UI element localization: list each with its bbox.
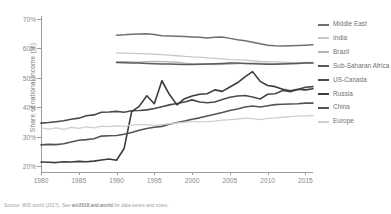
x-tick-mark [192, 172, 193, 175]
x-tick-label: 1990 [109, 177, 124, 184]
legend-item-middle-east[interactable]: Middle East [318, 20, 391, 27]
x-tick-label: 2010 [260, 177, 275, 184]
x-tick-label: 2015 [298, 177, 313, 184]
legend-item-europe[interactable]: Europe [318, 117, 391, 124]
x-tick-mark [230, 172, 231, 175]
x-tick-mark [41, 172, 42, 175]
legend-swatch-icon [318, 65, 329, 67]
legend-swatch-icon [318, 93, 329, 95]
x-tick-mark [268, 172, 269, 175]
x-tick-mark [117, 172, 118, 175]
x-tick-mark [79, 172, 80, 175]
source-suffix: for data series and notes. [113, 203, 169, 208]
legend-label: US-Canada [333, 76, 367, 83]
series-lines [41, 16, 313, 172]
legend-swatch-icon [318, 51, 329, 53]
x-tick-label: 1995 [147, 177, 162, 184]
legend-item-india[interactable]: India [318, 34, 391, 41]
legend-label: India [333, 34, 347, 41]
x-axis-line [41, 172, 313, 173]
x-tick-label: 2005 [223, 177, 238, 184]
x-tick-label: 1980 [34, 177, 49, 184]
legend-label: Sub-Saharan Africa [333, 62, 389, 69]
legend-item-china[interactable]: China [318, 103, 391, 110]
legend-item-russia[interactable]: Russia [318, 90, 391, 97]
x-tick-mark [154, 172, 155, 175]
y-tick-label: 50% [23, 74, 36, 81]
x-tick-label: 1985 [71, 177, 86, 184]
source-link[interactable]: wir2018.wid.world [72, 203, 113, 208]
source-prefix: Source: WID.world (2017). See [4, 203, 72, 208]
series-line-china [41, 103, 313, 145]
y-tick-label: 20% [23, 163, 36, 170]
plot-area: 20%30%40%50%60%70% 198019851990199520002… [41, 16, 313, 172]
legend-swatch-icon [318, 107, 329, 109]
legend-label: Middle East [333, 20, 367, 27]
chart-legend: Middle EastIndiaBrazilSub-Saharan Africa… [318, 20, 391, 131]
legend-swatch-icon [318, 121, 329, 123]
chart-figure: Share of national income (%) 20%30%40%50… [0, 0, 391, 214]
legend-label: Europe [333, 117, 354, 124]
legend-swatch-icon [318, 37, 329, 39]
x-tick-mark [305, 172, 306, 175]
legend-label: China [333, 103, 350, 110]
legend-item-sub-saharan-africa[interactable]: Sub-Saharan Africa [318, 62, 391, 69]
legend-item-brazil[interactable]: Brazil [318, 48, 391, 55]
y-tick-label: 40% [23, 104, 36, 111]
x-tick-label: 2000 [185, 177, 200, 184]
legend-label: Russia [333, 90, 353, 97]
y-tick-label: 60% [23, 45, 36, 52]
y-tick-label: 70% [23, 15, 36, 22]
source-note: Source: WID.world (2017). See wir2018.wi… [4, 203, 169, 208]
legend-label: Brazil [333, 48, 349, 55]
legend-item-us-canada[interactable]: US-Canada [318, 76, 391, 83]
series-line-middle-east [117, 34, 313, 46]
y-tick-label: 30% [23, 133, 36, 140]
legend-swatch-icon [318, 24, 329, 26]
legend-swatch-icon [318, 79, 329, 81]
